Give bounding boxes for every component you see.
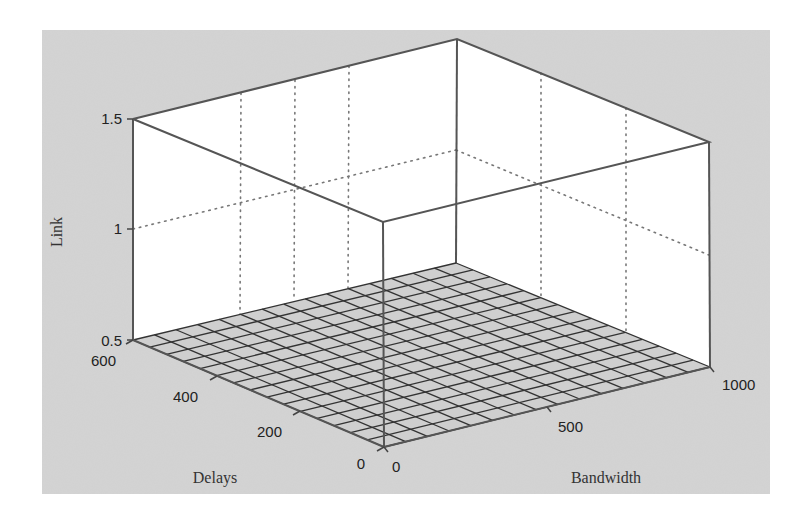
front-vertical-edge xyxy=(383,222,384,447)
bandwidth-tick-label-1000: 1000 xyxy=(722,376,755,393)
z-tick-label-0.5: 0.5 xyxy=(101,332,122,349)
right-vertical-edge xyxy=(709,142,710,367)
back-vertical-edge xyxy=(456,39,457,263)
surface-plot: 1.5 1 0.5 600 400 200 0 0 500 1000 Link … xyxy=(0,0,809,521)
delays-tick-label-600: 600 xyxy=(91,352,116,369)
z-tick-label-1: 1 xyxy=(114,220,122,237)
delays-tick-label-0: 0 xyxy=(357,455,365,472)
delays-axis-label: Delays xyxy=(193,469,237,487)
bandwidth-axis-label: Bandwidth xyxy=(571,469,641,486)
delays-tick-label-200: 200 xyxy=(257,423,282,440)
bandwidth-tick-label-500: 500 xyxy=(558,418,583,435)
delays-tick-label-400: 400 xyxy=(173,388,198,405)
bandwidth-tick-label-0: 0 xyxy=(392,458,400,475)
z-tick-label-1.5: 1.5 xyxy=(101,110,122,127)
z-axis-label: Link xyxy=(48,217,65,247)
